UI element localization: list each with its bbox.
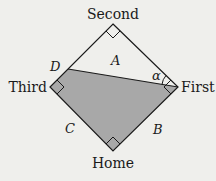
- label-home: Home: [92, 155, 134, 171]
- baseball-diamond-diagram: Second First Third Home D A α C B: [0, 0, 216, 181]
- label-second: Second: [87, 6, 139, 22]
- angle-alpha-arc: [162, 76, 166, 85]
- label-c: C: [65, 121, 75, 136]
- label-a: A: [110, 53, 120, 68]
- label-third: Third: [9, 79, 48, 95]
- label-alpha: α: [152, 68, 161, 83]
- right-angle-second: [106, 31, 120, 38]
- label-d: D: [49, 59, 61, 74]
- label-first: First: [181, 79, 215, 95]
- label-b: B: [152, 122, 163, 137]
